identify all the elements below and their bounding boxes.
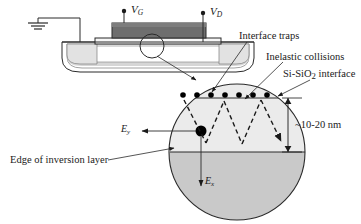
lateral-field-label: Ey: [121, 124, 130, 134]
gate-highlight: [112, 23, 206, 27]
carrier-electron-dot: [196, 126, 207, 137]
thickness-dimension-label: ~10-20 nm: [295, 120, 341, 131]
ground-icon: [28, 18, 48, 29]
source-ground-lead: [38, 18, 80, 42]
interface-traps-label: Interface traps: [239, 31, 299, 42]
bulk-substrate-region: [169, 152, 305, 220]
diagram-canvas: [0, 0, 361, 224]
source-well: [67, 44, 97, 64]
vertical-field-label: Ex: [205, 176, 214, 186]
depletion-region: [78, 46, 238, 62]
magnified-interface-circle: [142, 84, 305, 220]
inelastic-collisions-label: Inelastic collisions: [266, 52, 344, 63]
gate-oxide-layer: [95, 38, 221, 44]
si-sio2-interface-label: Si-SiO2 interface: [283, 69, 355, 80]
gate-voltage-label: VG: [131, 4, 143, 15]
drain-terminal-dot: [201, 11, 205, 15]
si-sio2-interface-leader: [278, 80, 310, 96]
drain-voltage-label: VD: [210, 6, 222, 17]
gate-terminal-dot: [122, 9, 126, 13]
edge-inversion-label: Edge of inversion layer: [10, 155, 108, 166]
mosfet-scattering-figure: VG VD Interface traps Inelastic collisio…: [0, 0, 361, 224]
edge-inversion-leader: [108, 148, 174, 160]
